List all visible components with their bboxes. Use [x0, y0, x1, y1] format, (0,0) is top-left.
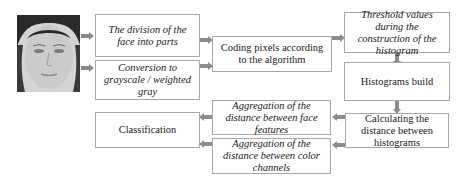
arrow-left-icon — [199, 113, 212, 121]
node-label: Classification — [119, 124, 177, 136]
node-label: The division of the face into parts — [99, 24, 196, 48]
node-agg-face: Aggregation of the distance between face… — [212, 100, 331, 135]
node-classification: Classification — [95, 112, 200, 148]
node-distance: Calculating the distance between histogr… — [345, 113, 449, 148]
node-agg-color: Aggregation of the distance between colo… — [212, 138, 331, 174]
node-label: Histograms build — [361, 76, 434, 88]
node-label: Aggregation of the distance between colo… — [216, 138, 327, 174]
node-label: Calculating the distance between histogr… — [349, 113, 445, 149]
arrow-left-icon — [332, 113, 345, 121]
arrow-left-icon — [199, 140, 212, 148]
node-histograms: Histograms build — [344, 62, 450, 101]
arrow-left-icon — [332, 141, 345, 149]
node-grayscale: Conversion to grayscale / weighted gray — [95, 60, 200, 100]
node-threshold: Threshold values during the construction… — [344, 12, 450, 53]
node-label: Threshold values during the construction… — [348, 9, 446, 57]
node-label: Aggregation of the distance between face… — [216, 100, 327, 136]
node-division: The division of the face into parts — [95, 14, 200, 57]
arrow-right-icon — [81, 64, 94, 72]
arrow-right-icon — [81, 32, 94, 40]
node-label: Conversion to grayscale / weighted gray — [99, 62, 196, 98]
node-label: Coding pixels according to the algorithm — [216, 42, 328, 66]
node-coding: Coding pixels according to the algorithm — [212, 36, 332, 72]
